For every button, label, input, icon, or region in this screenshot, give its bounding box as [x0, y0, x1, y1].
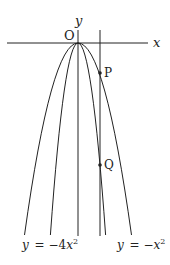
parabola-diagram: x y O P Q y = −4x2 y = −x2 — [0, 0, 170, 265]
point-q-label: Q — [104, 158, 114, 172]
point-p-marker — [98, 71, 102, 75]
y-axis-label: y — [74, 13, 83, 28]
origin-label: O — [64, 28, 75, 43]
point-p-label: P — [104, 66, 112, 80]
point-q-marker — [98, 163, 102, 167]
x-axis-label: x — [153, 35, 161, 50]
equation-outer-label: y = −x2 — [116, 237, 165, 252]
equation-inner-label: y = −4x2 — [21, 237, 78, 252]
